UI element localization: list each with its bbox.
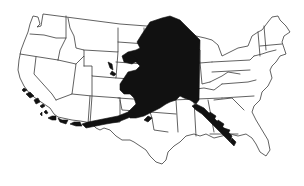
us-alaska-comparison-map xyxy=(0,0,304,186)
map-canvas xyxy=(0,0,304,186)
